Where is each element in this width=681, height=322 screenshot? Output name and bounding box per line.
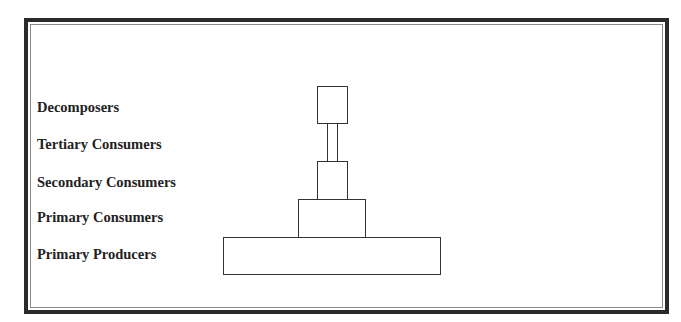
label-decomposers: Decomposers [37, 99, 119, 115]
label-tertiary-consumers: Tertiary Consumers [37, 136, 162, 152]
label-secondary-consumers: Secondary Consumers [37, 174, 176, 190]
tier-box-secondary-consumers [317, 161, 348, 200]
tier-box-decomposers [317, 86, 348, 124]
label-primary-consumers: Primary Consumers [37, 209, 163, 225]
tier-box-primary-producers [223, 237, 441, 275]
tier-box-primary-consumers [298, 199, 366, 238]
label-primary-producers: Primary Producers [37, 246, 156, 262]
tier-box-tertiary-consumers [327, 123, 338, 162]
